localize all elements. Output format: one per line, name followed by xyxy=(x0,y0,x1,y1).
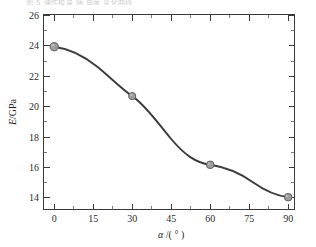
data-series xyxy=(50,43,292,201)
data-point-highlight xyxy=(130,94,132,96)
plot-frame xyxy=(44,15,295,210)
y-tick-label: 24 xyxy=(29,40,39,51)
y-tick-label: 26 xyxy=(29,10,39,21)
y-tick-label: 16 xyxy=(29,162,39,173)
data-point-highlight xyxy=(286,195,288,197)
x-tick-label: 75 xyxy=(244,213,254,224)
x-tick-label: 30 xyxy=(127,213,137,224)
x-tick-label: 60 xyxy=(205,213,215,224)
x-tick-label: 0 xyxy=(52,213,57,224)
y-tick-label: 20 xyxy=(29,101,39,112)
y-tick-label: 22 xyxy=(29,71,39,82)
y-tick-label: 14 xyxy=(29,192,39,203)
y-axis-title-unit: /GPa xyxy=(7,98,18,119)
data-point-marker xyxy=(284,193,292,201)
svg-text:E/GPa: E/GPa xyxy=(7,98,18,126)
chart-plot: 26 24 22 20 18 16 14 xyxy=(0,0,316,247)
y-tick-label: 18 xyxy=(29,132,39,143)
data-point-marker xyxy=(50,43,58,51)
x-axis-ticks xyxy=(54,15,288,210)
series-line xyxy=(54,47,288,198)
data-point-marker xyxy=(129,93,136,100)
x-tick-label: 90 xyxy=(283,213,293,224)
x-axis-title: α /( ° ) xyxy=(158,229,184,241)
data-point-highlight xyxy=(52,44,55,47)
x-tick-label: 45 xyxy=(166,213,176,224)
figure-canvas: 图 5 弹性模量 随 角度 变化曲线 xyxy=(0,0,316,247)
data-point-marker xyxy=(206,161,214,169)
y-axis-title: E/GPa xyxy=(7,98,18,126)
y-axis-title-symbol: E xyxy=(7,119,18,126)
svg-text:α /( ° ): α /( ° ) xyxy=(158,229,184,241)
x-axis-tick-labels: 0 15 30 45 60 75 90 xyxy=(52,213,294,224)
y-axis-ticks xyxy=(44,16,295,198)
y-axis-tick-labels: 26 24 22 20 18 16 14 xyxy=(29,10,39,203)
data-point-highlight xyxy=(208,163,210,165)
series-markers xyxy=(50,43,292,201)
x-tick-label: 15 xyxy=(88,213,98,224)
x-axis-title-unit: /( ° ) xyxy=(163,229,184,241)
